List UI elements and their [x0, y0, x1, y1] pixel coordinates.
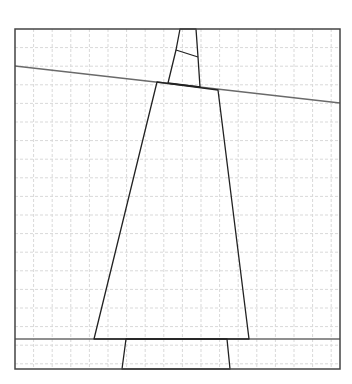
diagram-canvas	[0, 0, 352, 384]
upper-piece-divider	[176, 50, 198, 57]
main-trapezoid	[94, 82, 249, 339]
shapes	[15, 29, 340, 369]
grid	[15, 29, 340, 369]
upper-narrow-piece	[168, 29, 200, 87]
bottom-piece	[122, 339, 230, 369]
frame-border	[15, 29, 340, 369]
